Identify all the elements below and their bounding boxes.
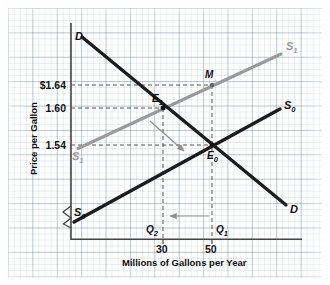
x-tick-label-50: 50 <box>205 243 217 255</box>
point-m-label: M <box>205 69 213 80</box>
supply-curve-1-label-top: S1 <box>286 40 298 55</box>
equilibrium-point-e1-label-sub: 1 <box>159 98 163 107</box>
supply-curve-1-label-bottom: S1 <box>72 150 84 165</box>
supply-curve-0-label-bottom-sub: 0 <box>81 212 85 221</box>
y-tick-label-160: 1.60 <box>14 102 66 114</box>
supply-curve-1-label-top-sub: 1 <box>293 46 297 55</box>
supply-curve-1-label-bottom-sub: 1 <box>79 156 83 165</box>
demand-curve-label-bottom: D <box>290 203 298 215</box>
equilibrium-point-e1-label-text: E <box>152 93 159 104</box>
equilibrium-point-e0-label-text: E <box>207 150 214 161</box>
axis-break-icon <box>63 206 71 228</box>
supply-curve-0-label-bottom: S0 <box>74 206 86 221</box>
quantity-marker-q1-text: Q <box>216 224 224 235</box>
quantity-marker-q1-sub: 1 <box>224 229 228 238</box>
quantity-marker-q2-text: Q <box>146 224 154 235</box>
x-tick-label-30: 30 <box>156 243 168 255</box>
equilibrium-point-e1-label: E1 <box>152 93 163 107</box>
supply-curve-0-line <box>74 109 280 222</box>
quantity-marker-q2: Q2 <box>146 224 158 238</box>
supply-shift-arrow <box>150 121 184 151</box>
y-tick-label-164: $1.64 <box>14 79 66 91</box>
x-axis-title: Millions of Gallons per Year <box>122 257 246 268</box>
equilibrium-point-e0-marker <box>210 143 215 148</box>
quantity-marker-q2-sub: 2 <box>154 229 158 238</box>
supply-curve-0-label-top-sub: 0 <box>291 105 295 114</box>
y-tick-label-154: 1.54 <box>14 139 66 151</box>
figure-root: Price per Gallon $1.64 1.60 1.54 30 50 M… <box>0 0 330 285</box>
equilibrium-point-e0-label-sub: 0 <box>214 155 218 164</box>
point-m-marker <box>210 83 214 87</box>
demand-curve-label-top: D <box>75 30 83 42</box>
supply-curve-1-line <box>78 54 281 149</box>
equilibrium-point-e0-label: E0 <box>207 150 218 164</box>
supply-curve-0-label-top: S0 <box>284 99 296 114</box>
quantity-marker-q1: Q1 <box>216 224 228 238</box>
